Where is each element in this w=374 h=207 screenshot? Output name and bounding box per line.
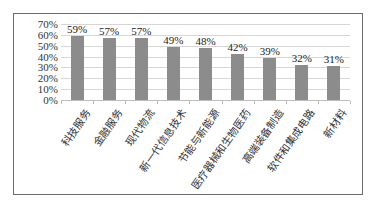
bar-value-label: 48%	[190, 36, 222, 47]
x-axis	[61, 100, 350, 101]
bar-value-label: 42%	[222, 42, 254, 53]
bar-value-label: 31%	[318, 54, 350, 65]
x-tick	[189, 101, 190, 104]
x-tick	[93, 101, 94, 104]
bar-value-label: 49%	[157, 35, 189, 46]
y-axis-labels: 0%10%20%30%40%50%60%70%	[16, 24, 58, 100]
y-tick-label: 20%	[18, 73, 58, 84]
bar	[263, 58, 276, 100]
bar	[135, 38, 148, 100]
bar-value-label: 32%	[286, 53, 318, 64]
x-tick	[318, 101, 319, 104]
y-tick-label: 0%	[18, 95, 58, 106]
plot-area: 59%57%57%49%48%42%39%32%31%	[61, 24, 350, 100]
y-tick-label: 50%	[18, 41, 58, 52]
y-tick-label: 30%	[18, 62, 58, 73]
x-tick	[222, 101, 223, 104]
y-tick-label: 60%	[18, 30, 58, 41]
bar	[199, 48, 212, 100]
bar	[71, 36, 84, 100]
bar-value-label: 57%	[93, 26, 125, 37]
bar	[327, 66, 340, 100]
y-tick-label: 10%	[18, 84, 58, 95]
bar	[167, 47, 180, 100]
bar	[103, 38, 116, 100]
bar-value-label: 39%	[254, 46, 286, 57]
bar	[231, 54, 244, 100]
x-tick	[350, 101, 351, 104]
bar	[295, 65, 308, 100]
x-tick	[286, 101, 287, 104]
y-tick-label: 40%	[18, 52, 58, 63]
bar-value-label: 59%	[61, 24, 93, 35]
bar-value-label: 57%	[125, 26, 157, 37]
x-tick	[125, 101, 126, 104]
x-tick	[61, 101, 62, 104]
x-tick	[254, 101, 255, 104]
y-tick-label: 70%	[18, 19, 58, 30]
x-tick	[157, 101, 158, 104]
